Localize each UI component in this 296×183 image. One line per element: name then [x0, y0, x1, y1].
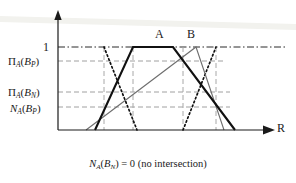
- x-axis-label: R: [277, 122, 285, 134]
- axis-label-pi-a-bp: ΠA(BP): [8, 56, 39, 68]
- curve-a: [95, 47, 235, 130]
- figure-caption: NA(BN) = 0 (no intersection): [0, 158, 296, 171]
- curve-label-a: A: [155, 28, 164, 40]
- y-axis-arrowhead: [54, 10, 61, 20]
- curve-bp-dotted: [104, 47, 137, 130]
- curve-label-b: B: [187, 28, 195, 40]
- scan-artifact-band: [0, 16, 296, 30]
- fuzzy-possibility-necessity-figure: [0, 0, 296, 183]
- x-axis-arrowhead: [263, 125, 275, 134]
- level-one-label: 1: [43, 41, 49, 53]
- axis-label-pi-a-bn: ΠA(BN): [8, 87, 40, 99]
- curve-bn-dotted: [183, 47, 216, 130]
- axis-label-n-a-bp: NA(BP): [10, 103, 41, 115]
